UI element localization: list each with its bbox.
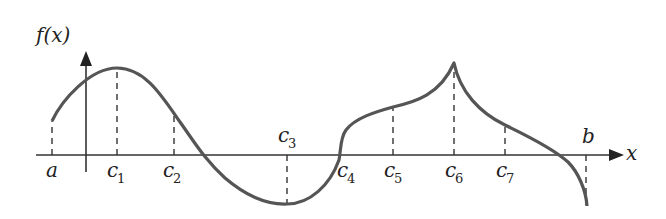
point-label-c4: c 4 <box>337 158 355 186</box>
y-axis-arrow-icon <box>80 51 92 66</box>
point-label-c2: c 2 <box>163 158 181 186</box>
svg-text:2: 2 <box>173 171 181 186</box>
point-label-c5: c 5 <box>384 158 402 186</box>
point-label-a: a <box>46 158 58 182</box>
x-axis-label: x <box>626 141 637 165</box>
svg-text:3: 3 <box>288 136 296 151</box>
svg-text:5: 5 <box>394 171 402 186</box>
function-diagram: f(x) x a c 1 c 2 c 3 c 4 c 5 c 6 c 7 b <box>0 0 666 219</box>
y-axis-label: f(x) <box>34 23 70 47</box>
x-axis-arrow-icon <box>609 149 624 161</box>
point-label-c3: c 3 <box>278 123 296 151</box>
svg-text:7: 7 <box>506 171 514 186</box>
svg-text:6: 6 <box>455 171 463 186</box>
point-label-c1: c 1 <box>107 158 125 186</box>
point-label-b: b <box>582 124 595 148</box>
point-label-c6: c 6 <box>445 158 463 186</box>
svg-text:1: 1 <box>117 171 125 186</box>
svg-text:4: 4 <box>347 171 355 186</box>
point-label-c7: c 7 <box>496 158 514 186</box>
